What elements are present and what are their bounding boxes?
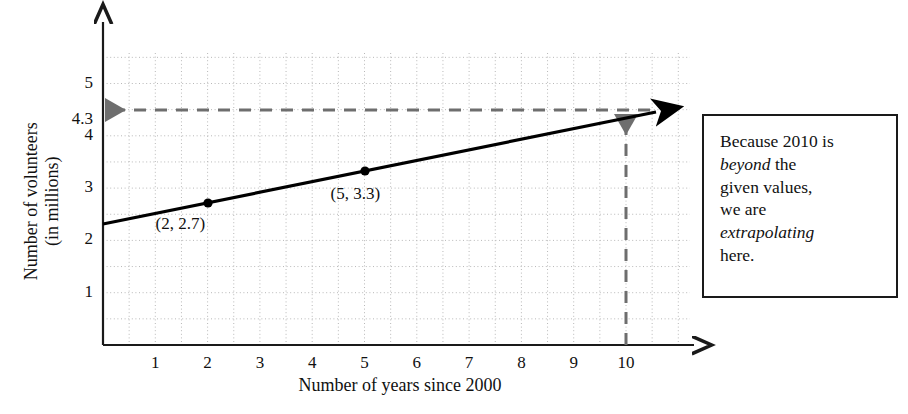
note-emphasis-beyond: beyond bbox=[720, 154, 771, 174]
note-line-2-rest: the bbox=[771, 154, 797, 174]
x-tick-label: 5 bbox=[350, 353, 380, 373]
y-tick-label: 3 bbox=[51, 177, 93, 197]
data-point-label: (5, 3.3) bbox=[331, 184, 381, 204]
extrapolation-note-box: Because 2010 is beyond the given values,… bbox=[702, 114, 898, 298]
data-point-label: (2, 2.7) bbox=[156, 214, 206, 234]
x-tick-label: 9 bbox=[559, 353, 589, 373]
x-tick-label: 8 bbox=[506, 353, 536, 373]
note-line-6: here. bbox=[720, 245, 755, 265]
x-axis-title: Number of years since 2000 bbox=[200, 375, 600, 396]
trend-line bbox=[103, 112, 656, 224]
x-tick-label: 3 bbox=[245, 353, 275, 373]
y-tick-label-extrapolated: 4.3 bbox=[47, 109, 93, 129]
data-point-marker bbox=[360, 166, 369, 175]
x-tick-label: 1 bbox=[140, 353, 170, 373]
y-axis-title-line-1: Number of volunteers bbox=[21, 101, 42, 301]
y-tick-label: 1 bbox=[51, 282, 93, 302]
data-point-marker bbox=[203, 198, 212, 207]
note-line-1: Because 2010 is bbox=[720, 131, 834, 151]
chart-canvas: Number of volunteers (in millions) Numbe… bbox=[0, 0, 908, 414]
note-emphasis-extrapolating: extrapolating bbox=[720, 222, 814, 242]
x-tick-label: 10 bbox=[611, 353, 641, 373]
x-tick-label: 2 bbox=[193, 353, 223, 373]
y-tick-label: 5 bbox=[51, 73, 93, 93]
x-tick-label: 4 bbox=[297, 353, 327, 373]
grid-lines bbox=[103, 53, 690, 345]
note-line-4: we are bbox=[720, 199, 766, 219]
note-line-3: given values, bbox=[720, 177, 812, 197]
x-tick-label: 7 bbox=[454, 353, 484, 373]
y-tick-label: 2 bbox=[51, 229, 93, 249]
x-tick-label: 6 bbox=[402, 353, 432, 373]
